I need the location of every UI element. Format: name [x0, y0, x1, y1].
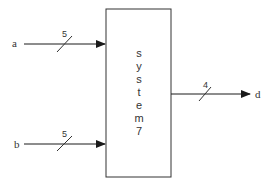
block-diagram: s y s t e m 7 a 5 b 5 4 d [0, 0, 275, 184]
label-char: m [134, 112, 143, 124]
output-d: 4 d [171, 80, 261, 101]
label-char: 7 [136, 125, 142, 137]
input-a-label: a [12, 37, 17, 49]
input-a-width: 5 [62, 29, 67, 39]
output-d-label: d [255, 88, 261, 100]
label-char: y [136, 60, 142, 72]
label-char: e [136, 99, 142, 111]
input-a: a 5 [12, 29, 105, 52]
input-b-width: 5 [62, 129, 67, 139]
input-b-label: b [14, 138, 20, 150]
label-char: t [137, 86, 140, 98]
label-char: s [136, 73, 142, 85]
label-char: s [136, 47, 142, 59]
input-b: b 5 [14, 129, 105, 151]
output-d-width: 4 [203, 80, 208, 90]
